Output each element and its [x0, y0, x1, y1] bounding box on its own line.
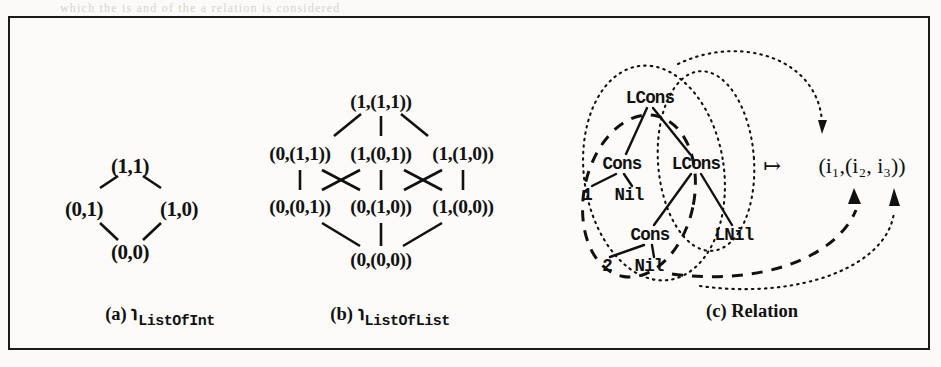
dashed-arrow-to-i2 — [672, 210, 856, 277]
dotted-arrow-head-i3 — [889, 188, 900, 206]
lattice-node: (1,(1,0)) — [432, 143, 493, 165]
figure-frame: (1,1) (0,1) (1,0) (0,0) (1,(1,1)) — [8, 16, 930, 350]
caption-a-prefix: (a) — [105, 304, 127, 324]
panel-b-lattice-listoflist: (1,(1,1)) (0,(1,1)) (1,(0,1)) (1,(1,0)) … — [210, 18, 550, 318]
lattice-node: (1,(0,1)) — [350, 143, 411, 165]
dotted-arrow-head-i1 — [818, 120, 827, 134]
lattice-node: (0,0) — [111, 240, 149, 265]
lattice-node: (1,1) — [111, 154, 149, 179]
tree-node-int: 1 — [582, 185, 592, 205]
tree-node-cons: Cons — [603, 154, 642, 174]
dotted-arrow-to-i1 — [678, 51, 822, 122]
tree-node-int: 2 — [602, 256, 612, 276]
tree-node-lcons: LCons — [626, 88, 675, 108]
mapsto-symbol: ↦ — [763, 154, 781, 178]
caption-a-subscript: ListOfInt — [138, 313, 215, 330]
tree-node-lcons: LCons — [672, 154, 721, 174]
lattice-node: (0,(1,0)) — [350, 196, 411, 218]
lattice-node: (0,(1,1)) — [269, 143, 330, 165]
lattice-node: (0,1) — [65, 197, 103, 222]
lattice-node: (1,0) — [160, 197, 198, 222]
lattice-node: (0,(0,1)) — [269, 196, 330, 218]
caption-b-subscript: ListOfList — [365, 313, 450, 330]
panel-c-relation: LCons Cons LCons 1 Nil Cons LNil 2 Nil ↦… — [550, 18, 932, 318]
relation-tuple: (i₁,(i₂, i₃)) — [818, 153, 905, 179]
lattice-node: (1,(1,1)) — [350, 91, 411, 113]
lattice-node: (0,(0,0)) — [350, 249, 411, 271]
caption-c-prefix: (c) — [706, 301, 727, 321]
caption-b-prefix: (b) — [330, 304, 353, 324]
caption-c: (c) Relation — [706, 301, 798, 322]
caption-a: (a) ℩ListOfInt — [105, 301, 215, 330]
tree-node-cons: Cons — [631, 225, 670, 245]
tree-node-nil: Nil — [634, 256, 663, 276]
caption-b: (b) ℩ListOfList — [330, 301, 449, 330]
scan-bleed-text: which the is and of the a relation is co… — [60, 1, 341, 16]
tree-node-lnil: LNil — [715, 225, 754, 245]
caption-c-text: Relation — [731, 301, 798, 321]
panel-b-edges — [210, 18, 550, 318]
lattice-node: (1,(0,0)) — [432, 196, 493, 218]
tree-node-nil: Nil — [614, 185, 643, 205]
dotted-arrow-to-i3 — [700, 212, 894, 289]
dashed-arrow-head-i2 — [848, 188, 861, 204]
